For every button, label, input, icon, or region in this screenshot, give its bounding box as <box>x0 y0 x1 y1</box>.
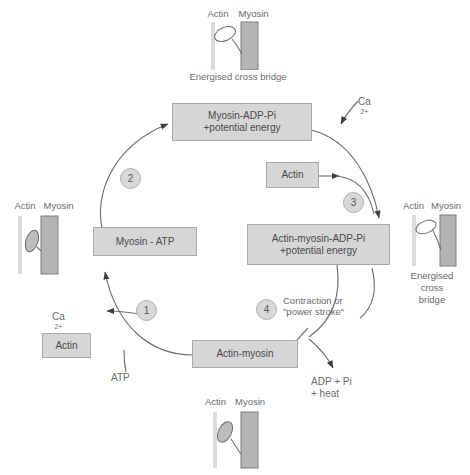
illustration-top: ActinMyosin <box>178 8 298 70</box>
cross-bridge-neck-icon <box>37 247 41 251</box>
step-1-number: 1 <box>144 305 150 316</box>
box-actin-myosin-adp-pi-line2: +potential energy <box>280 245 357 257</box>
calcium-top-charge: 2+ <box>358 108 371 116</box>
box-actin-myosin-label: Actin-myosin <box>216 348 273 360</box>
box-myosin-adp-pi-line1: Myosin-ADP-Pi <box>208 110 276 122</box>
step-circle-2: 2 <box>120 168 141 189</box>
contraction-line1: Contraction or <box>283 295 344 306</box>
illustration-right-actin-label: Actin <box>403 200 424 211</box>
illustration-left: ActinMyosin <box>5 200 83 278</box>
box-actin-myosin-adp-pi: Actin-myosin-ADP-Pi +potential energy <box>247 224 390 265</box>
illustration-top-myosin-label: Myosin <box>239 8 269 19</box>
myosin-filament-icon <box>241 412 258 468</box>
box-myosin-adp-pi: Myosin-ADP-Pi +potential energy <box>172 103 312 141</box>
label-atp: ATP <box>111 372 130 384</box>
illustration-left-actin-label: Actin <box>14 200 35 211</box>
arrow-calcium-in <box>341 101 358 124</box>
step-3-number: 3 <box>351 197 357 208</box>
illustration-top-actin-label: Actin <box>207 8 228 19</box>
illustration-right-caption-line3: bridge <box>398 294 466 306</box>
illustration-top-caption: Energised cross bridge <box>168 71 308 83</box>
illustration-right-myosin-label: Myosin <box>431 200 461 211</box>
illustration-bottom-myosin-label: Myosin <box>235 396 265 407</box>
actin-filament-icon <box>211 22 215 70</box>
box-actin-myosin: Actin-myosin <box>192 340 298 368</box>
label-calcium-left: Ca2+ <box>52 311 65 331</box>
actin-filament-icon <box>213 412 217 468</box>
actin-filament-icon <box>412 215 416 266</box>
diagram-canvas: Myosin-ADP-Pi +potential energy Myosin -… <box>0 0 470 475</box>
illustration-top-labels: ActinMyosin <box>178 8 298 19</box>
label-adp-pi-heat: ADP + Pi + heat <box>311 376 352 400</box>
myosin-head-icon <box>23 229 41 254</box>
step-2-number: 2 <box>128 173 134 184</box>
box-myosin-adp-pi-line2: +potential energy <box>203 122 280 134</box>
box-actin-input-label: Actin <box>281 169 303 181</box>
step-circle-3: 3 <box>343 192 364 213</box>
box-actin-released: Actin <box>42 333 91 358</box>
myosin-filament-icon <box>241 22 258 70</box>
step-4-number: 4 <box>264 304 270 315</box>
myosin-filament-icon <box>440 215 456 266</box>
illustration-bottom-labels: ActinMyosin <box>183 396 287 407</box>
illustration-right-caption-line1: Energised <box>398 270 466 282</box>
contraction-line2: "power stroke" <box>283 306 344 317</box>
illustration-right-labels: ActinMyosin <box>396 200 468 211</box>
adp-line2: + heat <box>311 388 352 400</box>
illustration-left-myosin-label: Myosin <box>44 200 74 211</box>
arrow-right-stub <box>360 268 374 318</box>
box-myosin-atp-line1: Myosin - ATP <box>116 236 175 248</box>
calcium-left-text: Ca <box>52 311 65 323</box>
calcium-left-charge: 2+ <box>52 323 65 331</box>
illustration-top-caption-line1: Energised cross bridge <box>168 71 308 83</box>
illustration-bottom-graphic <box>183 396 287 471</box>
box-actin-myosin-adp-pi-line1: Actin-myosin-ADP-Pi <box>272 233 365 245</box>
adp-line1: ADP + Pi <box>311 376 352 388</box>
illustration-bottom: ActinMyosin <box>183 396 287 471</box>
illustration-left-graphic <box>5 200 83 278</box>
box-myosin-atp: Myosin - ATP <box>93 227 197 256</box>
illustration-right-caption: Energised cross bridge <box>398 270 466 306</box>
step-circle-1: 1 <box>136 300 157 321</box>
myosin-filament-icon <box>41 216 58 274</box>
illustration-bottom-actin-label: Actin <box>205 396 226 407</box>
calcium-top-text: Ca <box>358 96 371 108</box>
illustration-right-caption-line2: cross <box>398 282 466 294</box>
box-actin-input: Actin <box>266 162 319 188</box>
illustration-right: ActinMyosin <box>396 200 468 268</box>
actin-filament-icon <box>18 216 22 274</box>
box-actin-released-label: Actin <box>55 340 77 352</box>
label-calcium-top: Ca2+ <box>358 96 371 116</box>
arrow-adp-out <box>309 339 333 368</box>
atp-text: ATP <box>111 372 130 384</box>
illustration-left-labels: ActinMyosin <box>5 200 83 211</box>
step-circle-4: 4 <box>256 299 277 320</box>
label-contraction: Contraction or "power stroke" <box>283 295 344 318</box>
arrow-atp-in <box>124 350 126 372</box>
cross-bridge-neck-icon <box>231 439 241 454</box>
